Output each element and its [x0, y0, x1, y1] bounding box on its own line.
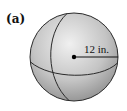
sphere-diagram: 12 in.: [0, 0, 127, 111]
radius-label: 12 in.: [84, 43, 109, 55]
center-point: [72, 55, 76, 59]
